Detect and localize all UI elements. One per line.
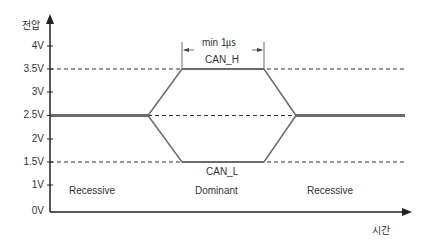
timing-label: min 1㎲ [202,34,236,49]
y-tick-3.5v: 3.5V [0,63,44,74]
can-voltage-diagram: 전압 4V 3.5V 3V 2.5V 2V 1.5V 1V 0V min 1㎲ … [0,0,427,240]
y-tick-1v: 1V [0,179,44,190]
can-l-label: CAN_L [206,166,238,177]
y-tick-2v: 2V [0,133,44,144]
can-h-label: CAN_H [205,54,239,65]
arrow-left-icon [183,48,189,52]
state-recessive-right: Recessive [307,185,353,196]
can-h-trace [148,69,296,116]
x-axis-label: 시간 [372,222,390,237]
x-axis-arrow-icon [402,208,412,216]
can-l-trace [148,116,296,163]
y-tick-1.5v: 1.5V [0,156,44,167]
y-tick-2.5v: 2.5V [0,109,44,120]
arrow-right-icon [257,48,263,52]
y-tick-3v: 3V [0,86,44,97]
y-axis-label: 전압 [22,17,40,32]
y-axis-arrow-icon [46,14,54,24]
y-tick-4v: 4V [0,40,44,51]
state-recessive-left: Recessive [69,185,115,196]
y-tick-0v: 0V [0,205,44,216]
state-dominant: Dominant [195,185,238,196]
